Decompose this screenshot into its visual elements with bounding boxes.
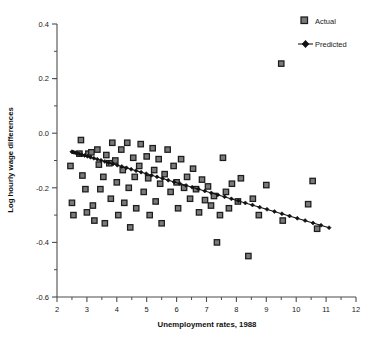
actual-data-point xyxy=(108,196,113,201)
actual-data-point xyxy=(90,203,95,208)
x-tick-label: 9 xyxy=(264,305,268,314)
actual-data-point xyxy=(144,154,149,159)
actual-data-point xyxy=(114,180,119,185)
actual-data-point xyxy=(95,147,100,152)
x-tick-label: 8 xyxy=(234,305,238,314)
actual-data-point xyxy=(168,189,173,194)
actual-data-point xyxy=(104,152,109,157)
scatter-plot-svg: -0.6-0.4-0.20.00.20.4 23456789101112 Une… xyxy=(0,0,379,350)
actual-data-point xyxy=(151,167,156,172)
actual-data-point xyxy=(110,140,115,145)
actual-data-point xyxy=(141,189,146,194)
actual-data-point xyxy=(131,155,136,160)
actual-data-point xyxy=(96,162,101,167)
actual-data-point xyxy=(305,201,310,206)
actual-data-point xyxy=(202,197,207,202)
legend-label-actual: Actual xyxy=(315,17,336,26)
actual-data-point xyxy=(171,163,176,168)
actual-data-point xyxy=(83,186,88,191)
actual-data-point xyxy=(147,212,152,217)
actual-data-point xyxy=(190,166,195,171)
actual-data-point xyxy=(98,186,103,191)
actual-data-point xyxy=(238,176,243,181)
x-tick-label: 2 xyxy=(55,305,59,314)
actual-data-point xyxy=(264,182,269,187)
actual-data-point xyxy=(132,174,137,179)
x-tick-label: 10 xyxy=(292,305,300,314)
actual-data-point xyxy=(208,203,213,208)
actual-data-point xyxy=(157,181,162,186)
x-tick-label: 5 xyxy=(145,305,149,314)
actual-data-point xyxy=(159,221,164,226)
actual-data-point xyxy=(280,218,285,223)
actual-data-point xyxy=(314,226,319,231)
actual-data-point xyxy=(256,212,261,217)
actual-data-point xyxy=(220,155,225,160)
x-axis-title: Unemployment rates, 1988 xyxy=(158,320,257,329)
actual-data-point xyxy=(119,147,124,152)
legend-label-predicted: Predicted xyxy=(315,40,347,49)
y-axis-title: Log hourly wage differences xyxy=(6,106,15,212)
actual-data-point xyxy=(146,176,151,181)
actual-data-point xyxy=(102,221,107,226)
y-tick-label: 0.0 xyxy=(39,129,49,138)
actual-data-point xyxy=(229,181,234,186)
actual-data-point xyxy=(175,206,180,211)
actual-data-point xyxy=(217,212,222,217)
actual-data-point xyxy=(78,137,83,142)
actual-data-point xyxy=(126,185,131,190)
actual-data-point xyxy=(196,210,201,215)
x-tick-label: 4 xyxy=(115,305,119,314)
actual-data-point xyxy=(178,156,183,161)
actual-data-point xyxy=(165,147,170,152)
y-tick-label: 0.4 xyxy=(39,20,49,29)
actual-data-point xyxy=(116,212,121,217)
x-tick-label: 7 xyxy=(204,305,208,314)
actual-data-point xyxy=(205,184,210,189)
actual-data-point xyxy=(279,61,284,66)
actual-data-point xyxy=(310,178,315,183)
actual-data-point xyxy=(134,206,139,211)
actual-data-point xyxy=(226,206,231,211)
actual-data-point xyxy=(80,173,85,178)
actual-data-point xyxy=(246,253,251,258)
x-tick-label: 12 xyxy=(352,305,360,314)
actual-data-point xyxy=(184,174,189,179)
actual-data-point xyxy=(69,200,74,205)
actual-data-point xyxy=(122,200,127,205)
actual-data-point xyxy=(125,140,130,145)
actual-data-point xyxy=(250,196,255,201)
actual-data-point xyxy=(150,146,155,151)
x-tick-label: 11 xyxy=(322,305,330,314)
actual-data-point xyxy=(71,212,76,217)
x-tick-label: 6 xyxy=(175,305,179,314)
legend-actual-marker-icon xyxy=(301,17,308,24)
chart-container: -0.6-0.4-0.20.00.20.4 23456789101112 Une… xyxy=(0,0,379,350)
actual-data-point xyxy=(138,141,143,146)
y-tick-label: -0.4 xyxy=(36,238,49,247)
x-tick-label: 3 xyxy=(85,305,89,314)
actual-data-point xyxy=(128,225,133,230)
actual-data-point xyxy=(156,156,161,161)
actual-data-point xyxy=(89,150,94,155)
actual-data-point xyxy=(223,189,228,194)
actual-data-point xyxy=(187,196,192,201)
y-tick-label: -0.2 xyxy=(36,184,49,193)
actual-data-point xyxy=(84,210,89,215)
actual-data-point xyxy=(68,163,73,168)
actual-data-point xyxy=(101,174,106,179)
actual-data-point xyxy=(199,177,204,182)
actual-data-point xyxy=(153,199,158,204)
y-tick-label: -0.6 xyxy=(36,293,49,302)
actual-data-point xyxy=(137,163,142,168)
actual-data-point xyxy=(162,171,167,176)
actual-data-point xyxy=(92,218,97,223)
y-tick-label: 0.2 xyxy=(39,74,49,83)
actual-data-point xyxy=(214,240,219,245)
